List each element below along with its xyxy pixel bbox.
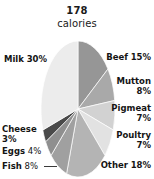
slice-label-mutton-percent: 8% (116, 86, 151, 96)
chart-title-unit: calories (0, 17, 154, 30)
pie-chart-figure: 178 calories Beef 15% Mutton 8% Pigmeat … (0, 0, 154, 179)
pie-slice-group (41, 41, 115, 177)
slice-label-milk: Milk 30% (4, 54, 47, 64)
slice-label-fish-percent: 8% (25, 161, 39, 171)
slice-label-other-name: Other (101, 160, 128, 170)
slice-label-eggs-percent: 4% (28, 146, 42, 156)
slice-label-other-percent: 18% (131, 160, 151, 170)
slice-label-mutton: Mutton 8% (116, 76, 151, 96)
slice-label-cheese-percent: 3% (2, 134, 37, 144)
pie-plot-area (40, 40, 116, 178)
slice-label-poultry-name: Poultry (116, 130, 151, 140)
slice-label-pigmeat-percent: 7% (111, 113, 151, 123)
chart-title: 178 calories (0, 4, 154, 30)
fish-leader-line (44, 166, 57, 167)
slice-label-pigmeat-name: Pigmeat (111, 103, 151, 113)
slice-label-poultry-percent: 7% (116, 140, 151, 150)
slice-label-other: Other 18% (101, 160, 151, 170)
slice-label-cheese-name: Cheese (2, 124, 37, 134)
pie-svg (40, 40, 116, 178)
slice-label-beef: Beef 15% (106, 52, 151, 62)
chart-title-value: 178 (0, 4, 154, 17)
slice-label-pigmeat: Pigmeat 7% (111, 103, 151, 123)
slice-label-fish-name: Fish (2, 161, 22, 171)
slice-label-beef-percent: 15% (131, 52, 151, 62)
slice-label-eggs: Eggs 4% (2, 146, 41, 156)
slice-label-milk-percent: 30% (27, 54, 47, 64)
slice-label-beef-name: Beef (106, 52, 128, 62)
slice-label-eggs-name: Eggs (2, 146, 25, 156)
slice-label-poultry: Poultry 7% (116, 130, 151, 150)
slice-label-milk-name: Milk (4, 54, 24, 64)
slice-label-mutton-name: Mutton (116, 76, 151, 86)
slice-label-fish: Fish 8% (2, 161, 38, 171)
slice-label-cheese: Cheese 3% (2, 124, 37, 144)
